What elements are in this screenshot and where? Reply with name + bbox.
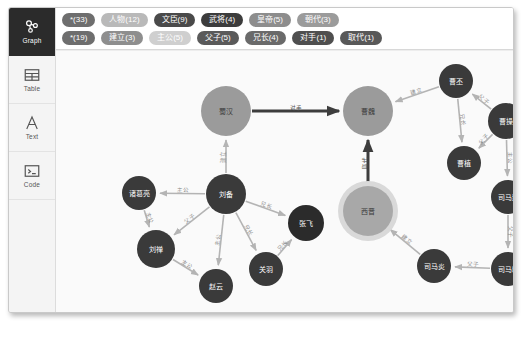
graph-edge[interactable] <box>160 193 205 194</box>
filter-tag[interactable]: 建立(3) <box>101 31 143 45</box>
filter-tag-bar: *(33)人物(12)文臣(9)武将(4)皇帝(5)朝代(3) *(19)建立(… <box>56 8 513 50</box>
graph-node[interactable] <box>343 186 393 236</box>
graph-node[interactable] <box>137 230 175 268</box>
filter-tag[interactable]: 对手(1) <box>292 31 334 45</box>
sidebar-item-table-label: Table <box>24 86 41 93</box>
graph-node[interactable] <box>447 146 481 180</box>
filter-tag[interactable]: 武将(4) <box>201 13 243 27</box>
graph-edge[interactable] <box>174 207 209 235</box>
graph-node[interactable] <box>288 205 324 241</box>
graph-edge[interactable] <box>455 267 490 268</box>
graph-node[interactable] <box>206 174 246 214</box>
graph-icon <box>23 18 41 36</box>
filter-tag[interactable]: 人物(12) <box>101 13 147 27</box>
graph-edge[interactable] <box>173 259 198 274</box>
filter-tag[interactable]: 兄长(4) <box>245 31 287 45</box>
filter-tag[interactable]: *(33) <box>62 13 95 27</box>
graph-edge[interactable] <box>246 201 286 215</box>
graph-node[interactable] <box>491 180 513 214</box>
code-icon <box>23 162 41 180</box>
app-window: Graph Table Text <box>8 7 514 313</box>
graph-edge[interactable] <box>236 213 256 251</box>
filter-tag[interactable]: 取代(1) <box>340 31 382 45</box>
filter-tag[interactable]: 父子(5) <box>197 31 239 45</box>
graph-edge[interactable] <box>506 140 507 176</box>
graph-node[interactable] <box>439 64 473 98</box>
graph-node[interactable] <box>122 176 156 210</box>
graph-edge[interactable] <box>458 99 462 142</box>
filter-tag[interactable]: 主公(5) <box>149 31 191 45</box>
sidebar-item-code-label: Code <box>24 182 40 189</box>
filter-tag[interactable]: 朝代(3) <box>297 13 339 27</box>
graph-node[interactable] <box>201 86 251 136</box>
graph-node[interactable] <box>199 269 233 303</box>
graph-edge[interactable] <box>390 230 420 255</box>
graph-node[interactable] <box>491 252 513 286</box>
sidebar-item-graph-label: Graph <box>22 38 41 45</box>
edge-label: 父子 <box>508 226 513 238</box>
relation-tag-row: *(19)建立(3)主公(5)父子(5)兄长(4)对手(1)取代(1) <box>62 31 507 45</box>
graph-node[interactable] <box>417 249 451 283</box>
graph-node[interactable] <box>343 86 393 136</box>
edge-label: 主公 <box>507 152 513 164</box>
graph-canvas[interactable]: 对手取代建立建立父子父子兄长主公父子父子建立主公父子主公兄长兄长主公主公兄长蜀汉… <box>56 50 513 312</box>
graph-edge[interactable] <box>144 210 149 227</box>
filter-tag[interactable]: *(19) <box>62 31 95 45</box>
graph-edge[interactable] <box>278 240 292 256</box>
sidebar: Graph Table Text <box>9 8 56 312</box>
sidebar-item-code[interactable]: Code <box>9 152 55 200</box>
graph-svg[interactable]: 对手取代建立建立父子父子兄长主公父子父子建立主公父子主公兄长兄长主公主公兄长蜀汉… <box>56 51 513 303</box>
sidebar-item-text-label: Text <box>26 134 39 141</box>
sidebar-item-table[interactable]: Table <box>9 56 55 104</box>
entity-tag-row: *(33)人物(12)文臣(9)武将(4)皇帝(5)朝代(3) <box>62 13 507 27</box>
edge-label: 主公 <box>177 186 189 193</box>
graph-edge[interactable] <box>472 94 491 109</box>
graph-edge[interactable] <box>479 134 493 148</box>
graph-edge[interactable] <box>218 215 223 265</box>
graph-node[interactable] <box>249 252 283 286</box>
graph-node[interactable] <box>488 103 513 139</box>
text-icon <box>23 114 41 132</box>
graph-edge[interactable] <box>395 87 439 102</box>
filter-tag[interactable]: 文臣(9) <box>154 13 196 27</box>
sidebar-item-graph[interactable]: Graph <box>9 8 55 56</box>
table-icon <box>23 66 41 84</box>
main-panel: *(33)人物(12)文臣(9)武将(4)皇帝(5)朝代(3) *(19)建立(… <box>56 8 513 312</box>
filter-tag[interactable]: 皇帝(5) <box>249 13 291 27</box>
sidebar-item-text[interactable]: Text <box>9 104 55 152</box>
